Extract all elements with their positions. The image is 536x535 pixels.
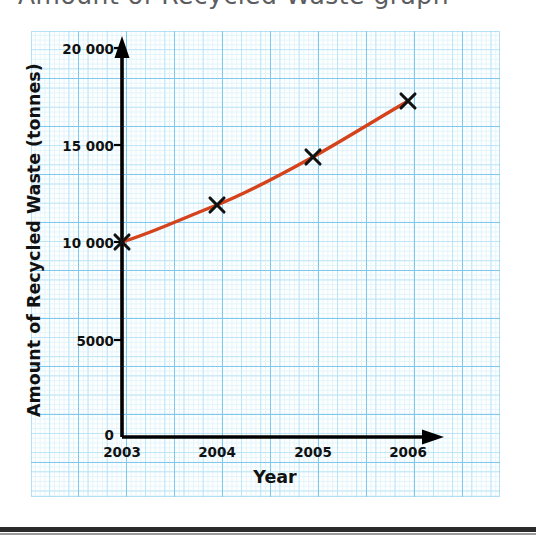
x-tick-label-2003: 2003 xyxy=(92,444,152,460)
x-tick-label-2005: 2005 xyxy=(283,444,343,460)
x-axis-title: Year xyxy=(185,467,365,487)
x-tick-label-2004: 2004 xyxy=(187,444,247,460)
y-tick-label-0: 0 xyxy=(26,427,114,443)
bottom-divider-rule xyxy=(0,527,536,532)
y-axis-title: Amount of Recycled Waste (tonnes) xyxy=(24,87,44,417)
clipped-heading-text: Amount of Recycled Waste graph xyxy=(18,0,449,10)
clipped-heading-strip: Amount of Recycled Waste graph xyxy=(0,0,536,22)
y-tick-label-20000: 20 000 xyxy=(26,41,114,57)
x-tick-label-2006: 2006 xyxy=(378,444,438,460)
